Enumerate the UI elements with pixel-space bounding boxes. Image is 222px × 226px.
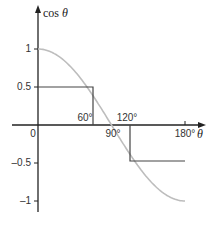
x-tick-label-90: 90° bbox=[105, 128, 120, 139]
y-axis-arrow-icon bbox=[35, 5, 41, 13]
x-tick-label-0: 0 bbox=[30, 128, 36, 139]
cosine-graph: 1 0.5 –0.5 –1 0 60° 90° 120° 180° cos θ … bbox=[0, 0, 222, 226]
y-tick-label-neg0.5: –0.5 bbox=[12, 157, 32, 168]
y-axis-title: cos θ bbox=[43, 6, 68, 20]
x-tick-label-60: 60° bbox=[77, 112, 92, 123]
x-tick-label-120: 120° bbox=[117, 112, 138, 123]
x-tick-label-180: 180° bbox=[175, 128, 196, 139]
x-axis-title: θ bbox=[197, 127, 203, 141]
y-tick-label-1: 1 bbox=[25, 43, 31, 54]
y-tick-label-neg1: –1 bbox=[20, 195, 32, 206]
y-tick-label-0.5: 0.5 bbox=[17, 81, 31, 92]
